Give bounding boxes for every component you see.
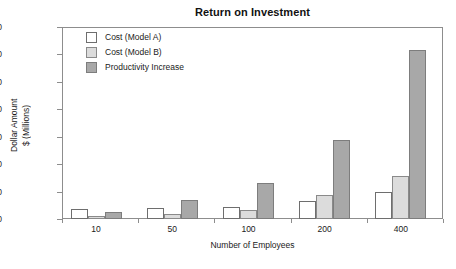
bar-100-series-0 xyxy=(223,207,240,219)
y-axis-tick-label: 0 xyxy=(0,214,2,224)
legend-item-label: Cost (Model A) xyxy=(105,32,161,43)
x-axis-tick-label: 100 xyxy=(241,224,255,234)
bar-10-series-0 xyxy=(71,209,88,219)
y-axis-tick-label: 2.00 xyxy=(0,159,2,169)
legend-item-label: Productivity Increase xyxy=(105,62,184,73)
x-axis-tick-mark xyxy=(62,219,63,223)
legend-swatch-icon xyxy=(86,32,97,43)
y-axis-tick-label: 5.00 xyxy=(0,77,2,87)
bar-50-series-2 xyxy=(181,200,198,219)
bar-400-series-0 xyxy=(375,192,392,219)
y-axis-title-line-1: Dollar Amount xyxy=(8,60,20,190)
legend-item-1: Cost (Model B) xyxy=(86,47,184,58)
y-axis-tick-label: 1.00 xyxy=(0,187,2,197)
x-axis-tick-label: 10 xyxy=(91,224,100,234)
bar-200-series-2 xyxy=(333,140,350,219)
x-axis-title: Number of Employees xyxy=(62,240,443,250)
bar-100-series-1 xyxy=(240,210,257,219)
y-axis-tick-label: 3.00 xyxy=(0,132,2,142)
legend-swatch-icon xyxy=(86,62,97,73)
y-axis-tick-label: $7.00 xyxy=(0,22,2,32)
legend-swatch-icon xyxy=(86,47,97,58)
y-axis-title: Dollar Amount $ (Millions) xyxy=(8,60,34,190)
y-axis-tick-label: 4.00 xyxy=(0,104,2,114)
y-axis-tick-label: 6.00 xyxy=(0,49,2,59)
x-axis-tick-label: 400 xyxy=(394,224,408,234)
chart-title: Return on Investment xyxy=(62,6,443,18)
legend-item-0: Cost (Model A) xyxy=(86,32,184,43)
bar-50-series-1 xyxy=(164,214,181,219)
bar-400-series-1 xyxy=(392,176,409,219)
x-axis-tick-label: 200 xyxy=(318,224,332,234)
return-on-investment-chart: Return on Investment $7.006.005.004.003.… xyxy=(0,0,456,269)
bar-200-series-1 xyxy=(316,195,333,219)
bar-400-series-2 xyxy=(409,50,426,219)
x-axis-tick-mark xyxy=(443,219,444,223)
y-axis-title-line-2: $ (Millions) xyxy=(20,60,32,190)
x-axis-tick-mark xyxy=(291,219,292,223)
legend-item-label: Cost (Model B) xyxy=(105,47,162,58)
bar-10-series-2 xyxy=(105,212,122,219)
x-axis-tick-mark xyxy=(214,219,215,223)
x-axis-tick-mark xyxy=(138,219,139,223)
bar-50-series-0 xyxy=(147,208,164,219)
chart-legend: Cost (Model A)Cost (Model B)Productivity… xyxy=(86,32,184,73)
x-axis-tick-mark xyxy=(367,219,368,223)
bar-100-series-2 xyxy=(257,183,274,219)
x-axis-tick-label: 50 xyxy=(168,224,177,234)
bar-200-series-0 xyxy=(299,201,316,219)
legend-item-2: Productivity Increase xyxy=(86,62,184,73)
bar-10-series-1 xyxy=(88,216,105,219)
